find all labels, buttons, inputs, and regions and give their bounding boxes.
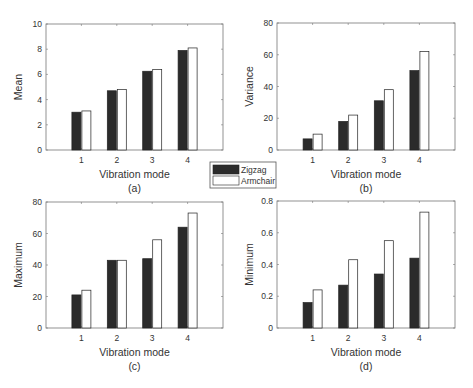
bar-zigzag-mode-3 <box>374 274 383 328</box>
x-tick-label: 2 <box>114 333 119 343</box>
x-tick-label: 3 <box>150 155 155 165</box>
x-tick-label: 2 <box>114 155 119 165</box>
bar-armchair-mode-3 <box>153 240 162 328</box>
bar-armchair-mode-1 <box>313 290 322 328</box>
y-tick-label: 60 <box>33 229 43 239</box>
x-tick-label: 3 <box>381 155 386 165</box>
x-tick-label: 2 <box>346 333 351 343</box>
legend: Zigzag Armchair <box>210 162 276 188</box>
x-tick-label: 3 <box>150 333 155 343</box>
x-axis-label: Vibration mode <box>331 168 402 180</box>
y-axis-label: Maximum <box>12 242 24 288</box>
panel-label: (c) <box>128 360 140 372</box>
bar-armchair-mode-3 <box>384 90 393 150</box>
legend-label-armchair: Armchair <box>241 176 275 186</box>
bar-zigzag-mode-2 <box>107 260 116 328</box>
bar-armchair-mode-4 <box>420 52 429 150</box>
figure: 02468101234Vibration modeMean(a)02040608… <box>0 0 473 388</box>
bar-zigzag-mode-4 <box>178 227 187 328</box>
x-tick-label: 4 <box>185 333 190 343</box>
bar-armchair-mode-2 <box>117 90 126 150</box>
y-tick-label: 20 <box>264 113 274 123</box>
legend-label-zigzag: Zigzag <box>241 165 267 175</box>
y-tick-label: 0.4 <box>261 260 273 270</box>
legend-swatch-zigzag <box>213 165 239 174</box>
x-tick-label: 1 <box>79 155 84 165</box>
x-tick-label: 4 <box>417 333 422 343</box>
bar-armchair-mode-1 <box>313 134 322 150</box>
y-tick-label: 60 <box>264 50 274 60</box>
bar-zigzag-mode-1 <box>72 295 81 328</box>
y-axis-label: Variance <box>243 66 255 107</box>
x-tick-label: 1 <box>79 333 84 343</box>
bar-armchair-mode-3 <box>384 241 393 328</box>
bar-armchair-mode-1 <box>82 290 91 328</box>
bar-armchair-mode-3 <box>153 69 162 150</box>
legend-swatch-armchair <box>213 176 239 185</box>
x-axis-label: Vibration mode <box>331 346 402 358</box>
bar-armchair-mode-4 <box>420 212 429 328</box>
bar-zigzag-mode-3 <box>143 259 152 328</box>
y-tick-label: 0 <box>37 323 42 333</box>
x-tick-label: 2 <box>346 155 351 165</box>
y-tick-label: 0.6 <box>261 228 273 238</box>
chart-panel-c: 0204060801234Vibration modeMaximum(c) <box>12 197 223 372</box>
chart-panel-a: 02468101234Vibration modeMean(a) <box>12 19 223 194</box>
y-tick-label: 40 <box>33 260 43 270</box>
bar-armchair-mode-2 <box>349 260 358 328</box>
y-tick-label: 2 <box>37 120 42 130</box>
y-tick-label: 0 <box>268 323 273 333</box>
panel-label: (d) <box>360 360 373 372</box>
bar-zigzag-mode-1 <box>303 139 312 150</box>
bar-zigzag-mode-3 <box>374 101 383 150</box>
y-axis-label: Mean <box>12 74 24 100</box>
x-tick-label: 4 <box>417 155 422 165</box>
y-tick-label: 4 <box>37 95 42 105</box>
x-tick-label: 4 <box>185 155 190 165</box>
bar-armchair-mode-2 <box>117 260 126 328</box>
bar-zigzag-mode-4 <box>410 258 419 328</box>
chart-panel-d: 00.20.40.60.81234Vibration modeMinimum(d… <box>243 196 455 372</box>
bar-zigzag-mode-2 <box>107 91 116 150</box>
y-tick-label: 0 <box>268 145 273 155</box>
y-tick-label: 0 <box>37 145 42 155</box>
y-tick-label: 10 <box>33 19 43 29</box>
panel-label: (a) <box>128 182 141 194</box>
bar-armchair-mode-1 <box>82 111 91 150</box>
bar-zigzag-mode-2 <box>339 285 348 328</box>
x-tick-label: 1 <box>310 155 315 165</box>
x-tick-label: 1 <box>310 333 315 343</box>
bar-zigzag-mode-1 <box>303 303 312 328</box>
panel-label: (b) <box>360 182 373 194</box>
bar-zigzag-mode-2 <box>339 121 348 150</box>
bar-zigzag-mode-4 <box>178 50 187 150</box>
x-axis-label: Vibration mode <box>99 168 170 180</box>
bar-armchair-mode-2 <box>349 115 358 150</box>
bar-zigzag-mode-3 <box>143 71 152 150</box>
bar-zigzag-mode-4 <box>410 71 419 150</box>
bar-zigzag-mode-1 <box>72 112 81 150</box>
y-tick-label: 0.8 <box>261 196 273 206</box>
y-tick-label: 40 <box>264 82 274 92</box>
y-tick-label: 8 <box>37 44 42 54</box>
x-tick-label: 3 <box>381 333 386 343</box>
y-axis-label: Minimum <box>243 243 255 286</box>
y-tick-label: 80 <box>33 197 43 207</box>
y-tick-label: 0.2 <box>261 291 273 301</box>
y-tick-label: 6 <box>37 69 42 79</box>
bar-armchair-mode-4 <box>188 213 197 328</box>
x-axis-label: Vibration mode <box>99 346 170 358</box>
y-tick-label: 20 <box>33 292 43 302</box>
bar-armchair-mode-4 <box>188 48 197 150</box>
y-tick-label: 80 <box>264 18 274 28</box>
